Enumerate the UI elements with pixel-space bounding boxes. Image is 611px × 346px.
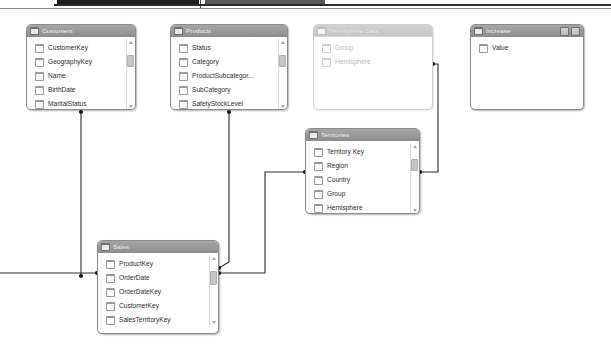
relationship-endpoint xyxy=(227,110,231,114)
scrollbar-thumb[interactable] xyxy=(127,55,134,67)
field-row[interactable]: Hemisphere xyxy=(314,55,432,69)
table-field-icon xyxy=(179,100,188,109)
table-field-icon xyxy=(179,44,188,53)
field-label: SubCategory xyxy=(192,83,231,97)
table-field-icon xyxy=(35,100,44,109)
field-label: Hemisphere xyxy=(335,55,371,69)
table-field-icon xyxy=(314,148,323,157)
field-row[interactable]: Category xyxy=(171,55,287,69)
field-row[interactable]: CustomerKey xyxy=(27,41,135,55)
field-row[interactable]: Hemisphere xyxy=(306,201,419,214)
field-row[interactable]: Region xyxy=(306,159,419,173)
scroll-up-arrow-icon[interactable] xyxy=(127,39,134,45)
table-header-buttons xyxy=(560,27,580,36)
table-field-list-customers: CustomerKeyGeographyKeyNameBirthDateMari… xyxy=(27,37,135,110)
table-field-icon xyxy=(179,86,188,95)
table-header-sales[interactable]: Sales xyxy=(98,241,218,253)
table-header-hemisphere-data[interactable]: Hemisphere Data xyxy=(314,25,432,37)
scroll-down-arrow-icon[interactable] xyxy=(411,207,418,213)
field-label: CustomerKey xyxy=(48,41,88,55)
field-row[interactable]: Status xyxy=(171,41,287,55)
table-header-customers[interactable]: Customers xyxy=(27,25,135,37)
table-scrollbar-sales[interactable] xyxy=(209,255,217,325)
table-icon xyxy=(30,27,39,35)
relationship-endpoint xyxy=(79,110,83,114)
scroll-up-arrow-icon[interactable] xyxy=(411,143,418,149)
field-label: Value xyxy=(492,41,508,55)
table-field-icon xyxy=(179,58,188,67)
field-row[interactable]: ProductKey xyxy=(98,257,218,271)
field-label: BirthDate xyxy=(48,83,76,97)
field-row[interactable]: OrderDateKey xyxy=(98,285,218,299)
scrollbar-thumb[interactable] xyxy=(411,159,418,171)
field-row[interactable]: ProductSubcategor... xyxy=(171,69,287,83)
table-field-icon xyxy=(35,58,44,67)
field-row[interactable]: Territory Key xyxy=(306,145,419,159)
table-field-icon xyxy=(106,288,115,297)
field-row[interactable]: Group xyxy=(306,187,419,201)
table-scrollbar-customers[interactable] xyxy=(126,39,134,109)
table-card-products[interactable]: ProductsStatusCategoryProductSubcategor.… xyxy=(170,24,288,110)
table-field-icon xyxy=(314,190,323,199)
table-title: Sales xyxy=(113,241,129,252)
field-row[interactable]: SalesTerritoryKey xyxy=(98,313,218,327)
table-card-increase[interactable]: IncreaseValue xyxy=(470,24,584,110)
field-row[interactable]: CustomerKey xyxy=(98,299,218,313)
table-title: Increase xyxy=(486,25,511,36)
relationship-endpoint xyxy=(79,274,83,278)
table-icon xyxy=(174,27,183,35)
table-scrollbar-territories[interactable] xyxy=(410,143,418,213)
field-label: OrderDate xyxy=(119,271,150,285)
table-field-list-sales: ProductKeyOrderDateOrderDateKeyCustomerK… xyxy=(98,253,218,327)
scroll-down-arrow-icon[interactable] xyxy=(210,319,217,325)
field-label: SafetyStockLevel xyxy=(192,97,243,110)
table-field-list-territories: Territory KeyRegionCountryGroupHemispher… xyxy=(306,141,419,214)
table-card-hemisphere-data[interactable]: Hemisphere DataGroupHemisphere xyxy=(313,24,433,110)
field-row[interactable]: OrderDate xyxy=(98,271,218,285)
field-row[interactable]: Group xyxy=(314,41,432,55)
table-header-increase[interactable]: Increase xyxy=(471,25,583,37)
field-label: Group xyxy=(327,187,345,201)
table-icon xyxy=(101,243,110,251)
scrollbar-thumb[interactable] xyxy=(279,55,286,67)
table-icon xyxy=(474,27,483,35)
relationship-line-sales-to-territories[interactable] xyxy=(219,172,305,273)
field-label: MaritalStatus xyxy=(48,97,86,110)
table-field-icon xyxy=(322,44,331,53)
field-label: SalesTerritoryKey xyxy=(119,313,171,327)
field-row[interactable]: SubCategory xyxy=(171,83,287,97)
scroll-up-arrow-icon[interactable] xyxy=(210,255,217,261)
maximize-button[interactable] xyxy=(571,27,580,36)
field-row[interactable]: SafetyStockLevel xyxy=(171,97,287,110)
field-label: CustomerKey xyxy=(119,299,159,313)
table-card-sales[interactable]: SalesProductKeyOrderDateOrderDateKeyCust… xyxy=(97,240,219,334)
field-row[interactable]: Country xyxy=(306,173,419,187)
table-field-icon xyxy=(314,162,323,171)
field-label: OrderDateKey xyxy=(119,285,161,299)
table-card-territories[interactable]: TerritoriesTerritory KeyRegionCountryGro… xyxy=(305,128,420,214)
field-label: ProductSubcategor... xyxy=(192,69,254,83)
scroll-down-arrow-icon[interactable] xyxy=(127,103,134,109)
model-diagram-canvas: CustomersCustomerKeyGeographyKeyNameBirt… xyxy=(0,0,611,346)
field-label: Hemisphere xyxy=(327,201,363,214)
table-card-customers[interactable]: CustomersCustomerKeyGeographyKeyNameBirt… xyxy=(26,24,136,110)
field-row[interactable]: BirthDate xyxy=(27,83,135,97)
table-field-icon xyxy=(35,72,44,81)
field-label: Category xyxy=(192,55,219,69)
table-field-icon xyxy=(106,260,115,269)
table-header-products[interactable]: Products xyxy=(171,25,287,37)
restore-button[interactable] xyxy=(560,27,569,36)
table-title: Hemisphere Data xyxy=(329,25,379,36)
field-row[interactable]: MaritalStatus xyxy=(27,97,135,110)
table-header-territories[interactable]: Territories xyxy=(306,129,419,141)
scroll-down-arrow-icon[interactable] xyxy=(279,103,286,109)
table-scrollbar-products[interactable] xyxy=(278,39,286,109)
relationship-line-sales-to-products[interactable] xyxy=(219,112,229,268)
field-row[interactable]: GeographyKey xyxy=(27,55,135,69)
scroll-up-arrow-icon[interactable] xyxy=(279,39,286,45)
field-row[interactable]: Name xyxy=(27,69,135,83)
scrollbar-thumb[interactable] xyxy=(210,271,217,285)
table-field-icon xyxy=(322,58,331,67)
field-label: Territory Key xyxy=(327,145,364,159)
field-row[interactable]: Value xyxy=(471,41,583,55)
